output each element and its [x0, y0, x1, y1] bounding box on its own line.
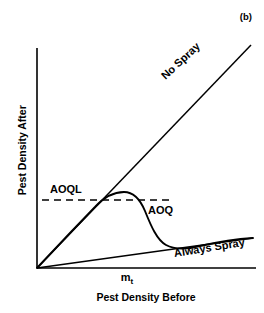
- y-axis-label: Pest Density After: [17, 90, 28, 210]
- series-line-aoq: [37, 192, 253, 268]
- series-group: [37, 45, 253, 268]
- x-tick-label-mt: mt: [104, 272, 150, 283]
- x-tick-subscript: t: [131, 277, 134, 286]
- figure-panel-b: (b) Pest Density After Pest Density Befo…: [0, 0, 264, 313]
- x-axis-label: Pest Density Before: [37, 292, 255, 303]
- panel-label: (b): [240, 12, 252, 22]
- annotation-aoq: AOQ: [148, 205, 173, 216]
- chart-canvas: [0, 0, 264, 313]
- annotation-aoql: AOQL: [50, 184, 82, 195]
- axes-group: [37, 48, 256, 268]
